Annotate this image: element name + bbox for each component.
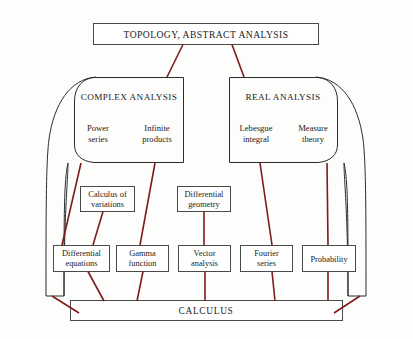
node-label-line1: Differential — [62, 249, 102, 258]
member-infinite-products-line1: Infinite — [144, 123, 169, 133]
region-complex-analysis[interactable]: COMPLEX ANALYSIS Power series Infinite p… — [75, 78, 184, 163]
connector-topology-to-real — [232, 45, 244, 78]
region-outline — [230, 78, 338, 163]
node-probability[interactable]: Probability — [303, 246, 356, 272]
connector-variations-to-differential-equations — [93, 212, 103, 246]
member-infinite-products-line2: products — [142, 134, 172, 144]
connector-fourier-series-to-calculus — [272, 272, 275, 302]
node-differential-geometry[interactable]: Differential geometry — [178, 187, 231, 212]
node-label-line1: Fourier — [254, 249, 279, 258]
node-label: TOPOLOGY, ABSTRACT ANALYSIS — [124, 29, 289, 40]
node-label-line2: equations — [65, 259, 97, 268]
member-lebesgue-integral-line2: integral — [243, 134, 270, 144]
diagram-canvas: TOPOLOGY, ABSTRACT ANALYSIS COMPLEX ANAL… — [0, 0, 413, 339]
node-label: CALCULUS — [178, 306, 233, 316]
node-fourier-series[interactable]: Fourier series — [241, 246, 293, 272]
node-label-line1: Calculus of — [88, 190, 127, 199]
math-hierarchy-diagram: TOPOLOGY, ABSTRACT ANALYSIS COMPLEX ANAL… — [0, 0, 413, 339]
node-differential-equations[interactable]: Differential equations — [54, 246, 110, 272]
node-calculus[interactable]: CALCULUS — [71, 301, 343, 321]
region-label: REAL ANALYSIS — [245, 92, 320, 102]
node-label-line1: Differential — [185, 190, 225, 199]
region-outline — [75, 78, 184, 163]
member-lebesgue-integral-line1: Lebesgue — [240, 123, 273, 133]
node-label-line2: series — [257, 259, 276, 268]
connector-real-to-probability — [327, 163, 328, 245]
node-label-line1: Probability — [310, 255, 348, 264]
connector-topology-to-complex — [167, 45, 183, 78]
node-label-line2: analysis — [191, 259, 218, 268]
node-label-line2: variations — [91, 200, 124, 209]
member-power-series-line1: Power — [87, 123, 109, 133]
node-label-line2: geometry — [188, 200, 220, 209]
node-label-line1: Vector — [194, 249, 216, 258]
member-measure-theory-line1: Measure — [298, 123, 328, 133]
region-label: COMPLEX ANALYSIS — [81, 92, 178, 102]
node-gamma-function[interactable]: Gamma function — [117, 246, 169, 272]
region-real-analysis[interactable]: REAL ANALYSIS Lebesgue integral Measure … — [230, 78, 338, 163]
connector-gamma-function-to-calculus — [137, 272, 143, 302]
node-label-line2: function — [129, 259, 158, 268]
member-power-series-line2: series — [88, 134, 108, 144]
node-topology-abstract-analysis[interactable]: TOPOLOGY, ABSTRACT ANALYSIS — [94, 24, 319, 45]
node-label-line1: Gamma — [129, 249, 156, 258]
connector-differential-equations-to-calculus — [88, 272, 104, 302]
connector-real-to-fourier-series — [260, 163, 272, 245]
node-calculus-of-variations[interactable]: Calculus of variations — [81, 187, 135, 212]
inner-right-arc — [344, 163, 348, 296]
member-measure-theory-line2: theory — [302, 134, 325, 144]
connector-complex-to-gamma-function — [140, 163, 155, 245]
node-vector-analysis[interactable]: Vector analysis — [179, 246, 231, 272]
